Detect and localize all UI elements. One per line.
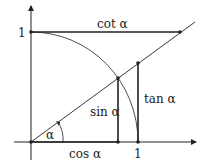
x-unit-point [136, 140, 140, 144]
y-unit-label: 1 [18, 26, 26, 40]
origin-point [29, 140, 33, 144]
unit-circle-diagram: cot α sin α tan α cos α α 1 1 [0, 0, 205, 167]
tan-label: tan α [144, 92, 176, 106]
cos-foot-point [116, 140, 120, 144]
x-unit-label: 1 [134, 147, 142, 161]
angle-ray [31, 22, 195, 142]
cos-label: cos α [69, 147, 101, 161]
cot-point [178, 30, 182, 34]
sin-label: sin α [90, 105, 120, 119]
alpha-label: α [46, 128, 54, 142]
unit-circle-arc [31, 32, 138, 142]
tan-point [136, 61, 140, 65]
y-unit-point [29, 30, 33, 34]
sincos-point [116, 76, 120, 80]
cot-label: cot α [97, 17, 128, 31]
